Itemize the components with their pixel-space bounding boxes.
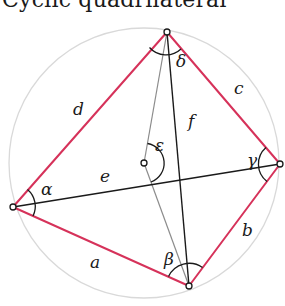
label-side-d: d xyxy=(73,99,84,119)
vertex-d xyxy=(164,29,170,35)
cyclic-quadrilateral-diagram: d c a b e f α β γ δ ε xyxy=(0,0,285,306)
label-side-b: b xyxy=(242,220,253,240)
label-angle-beta: β xyxy=(163,249,174,269)
vertex-b xyxy=(186,283,192,289)
label-diag-f: f xyxy=(186,111,197,131)
label-diag-e: e xyxy=(100,166,110,186)
label-angle-gamma: γ xyxy=(247,150,258,170)
vertex-c xyxy=(277,161,283,167)
vertex-a xyxy=(10,204,16,210)
quadrilateral-sides xyxy=(13,32,280,286)
center-point xyxy=(141,160,147,166)
label-angle-epsilon: ε xyxy=(155,135,164,155)
angle-arc-alpha xyxy=(28,190,36,217)
label-angle-alpha: α xyxy=(41,179,53,199)
angle-arc-gamma xyxy=(258,148,267,182)
label-angle-delta: δ xyxy=(176,51,186,71)
label-side-c: c xyxy=(234,78,244,98)
label-side-a: a xyxy=(90,252,100,272)
